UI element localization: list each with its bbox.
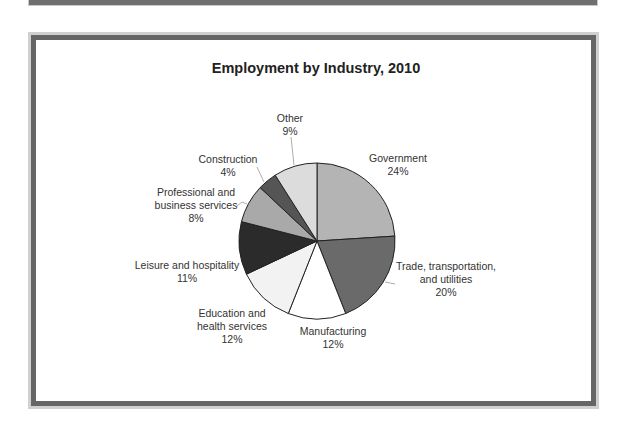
label-trade: Trade, transportation,and utilities20% [396,260,496,298]
label-government: Government24% [369,152,427,177]
label-leisure: Leisure and hospitality11% [135,259,240,284]
label-construction: Construction4% [199,153,258,178]
label-other: Other9% [277,112,304,137]
pie-slices [239,163,395,319]
pie-chart: Other9% Government24% Construction4% Pro… [0,0,632,432]
label-manufacturing: Manufacturing12% [300,325,367,350]
label-education: Education andhealth services12% [197,307,267,345]
label-professional: Professional andbusiness services8% [155,186,238,224]
pie-slice-government [317,163,395,241]
